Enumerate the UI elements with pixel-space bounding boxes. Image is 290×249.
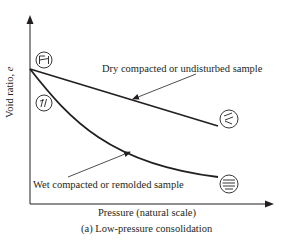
wet-compacted-curve: [30, 69, 218, 177]
wet-curve-label: Wet compacted or remolded sample: [33, 180, 184, 191]
y-axis-label: Void ratio, e: [4, 67, 15, 118]
parallel-oriented-structure-icon: [220, 175, 238, 193]
dispersed-structure-icon: [36, 95, 52, 111]
y-axis: [27, 15, 34, 204]
dry-compacted-curve: [30, 69, 218, 126]
flocculated-structure-icon: [36, 52, 52, 68]
dry-curve-label: Dry compacted or undisturbed sample: [102, 64, 262, 75]
partially-oriented-structure-icon: [220, 110, 238, 128]
y-axis-label-text: Void ratio,: [4, 71, 15, 118]
x-axis-label: Pressure (natural scale): [98, 208, 196, 219]
wet-label-leader-arrow: [68, 152, 130, 177]
y-axis-label-symbol: e: [4, 67, 15, 72]
dry-label-leader-arrow: [133, 74, 196, 99]
figure-caption: (a) Low-pressure consolidation: [81, 224, 212, 235]
